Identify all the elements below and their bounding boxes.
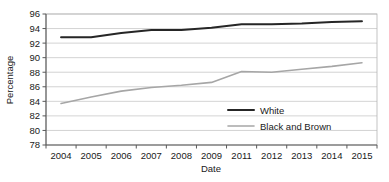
- x-axis-title: Date: [201, 163, 221, 174]
- x-tick-label: 2012: [261, 150, 282, 161]
- x-tick-labels: 2004200520062007200820092011201220132014…: [50, 150, 372, 161]
- x-tick-label: 2007: [141, 150, 162, 161]
- y-axis-title: Percentage: [4, 56, 15, 105]
- y-tick-label: 78: [29, 139, 40, 150]
- x-tick-label: 2015: [351, 150, 372, 161]
- x-tick-label: 2005: [81, 150, 102, 161]
- x-tick-label: 2006: [111, 150, 132, 161]
- x-tick-label: 2004: [50, 150, 71, 161]
- x-tick-label: 2011: [231, 150, 251, 161]
- y-tick-label: 84: [29, 96, 40, 107]
- x-tick-label: 2009: [201, 150, 222, 161]
- y-tick-label: 90: [29, 52, 40, 63]
- x-tick-label: 2014: [321, 150, 342, 161]
- y-tick-label: 82: [29, 110, 40, 121]
- y-tick-label: 96: [29, 8, 40, 19]
- y-tick-label: 88: [29, 67, 40, 78]
- legend-label: Black and Brown: [260, 121, 331, 132]
- y-tick-label: 86: [29, 81, 40, 92]
- x-tick-label: 2013: [291, 150, 312, 161]
- legend-label: White: [260, 105, 284, 116]
- x-tick-label: 2008: [171, 150, 192, 161]
- y-tick-label: 94: [29, 23, 40, 34]
- y-tick-label: 80: [29, 125, 40, 136]
- line-chart: 78808284868890929496 2004200520062007200…: [0, 0, 389, 182]
- y-tick-label: 92: [29, 38, 40, 49]
